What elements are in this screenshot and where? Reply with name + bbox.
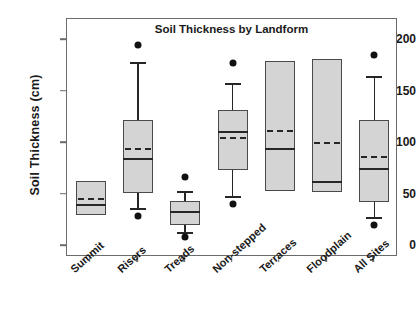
box-plot-figure: Soil Thickness (cm) 050100150200 Soil Th… (0, 0, 416, 331)
whisker-cap-lower (130, 208, 146, 210)
whisker-cap-upper (366, 76, 382, 78)
mean-line (125, 148, 151, 150)
box-rect (312, 59, 342, 193)
outlier-point (229, 200, 236, 207)
outlier-point (134, 42, 141, 49)
median-line (218, 131, 248, 133)
whisker-upper (374, 76, 376, 120)
mean-line (314, 142, 340, 144)
whisker-lower (374, 202, 376, 217)
median-line (265, 148, 295, 150)
whisker-upper (137, 62, 139, 121)
outlier-point (182, 173, 189, 180)
box-rect (265, 61, 295, 192)
box-rect (359, 120, 389, 201)
mean-line (361, 156, 387, 158)
whisker-cap-upper (225, 83, 241, 85)
whisker-cap-upper (130, 62, 146, 64)
plot-area: Soil Thickness by Landform (66, 18, 397, 256)
whisker-upper (232, 83, 234, 110)
median-line (359, 168, 389, 170)
median-line (312, 181, 342, 183)
mean-line (78, 198, 104, 200)
y-axis-label: Soil Thickness (cm) (28, 40, 42, 230)
whisker-cap-lower (225, 196, 241, 198)
outlier-point (182, 233, 189, 240)
outlier-point (371, 52, 378, 59)
median-line (123, 158, 153, 160)
chart-title: Soil Thickness by Landform (67, 23, 396, 35)
outlier-point (371, 222, 378, 229)
outlier-point (134, 213, 141, 220)
box-rect (218, 110, 248, 170)
mean-line (267, 130, 293, 132)
box-rect (170, 201, 200, 226)
mean-line (172, 211, 198, 213)
outlier-point (229, 59, 236, 66)
whisker-cap-lower (366, 217, 382, 219)
median-line (76, 204, 106, 206)
whisker-lower (137, 193, 139, 207)
box-rect (123, 120, 153, 193)
whisker-cap-upper (177, 191, 193, 193)
whisker-lower (232, 170, 234, 196)
mean-line (220, 137, 246, 139)
